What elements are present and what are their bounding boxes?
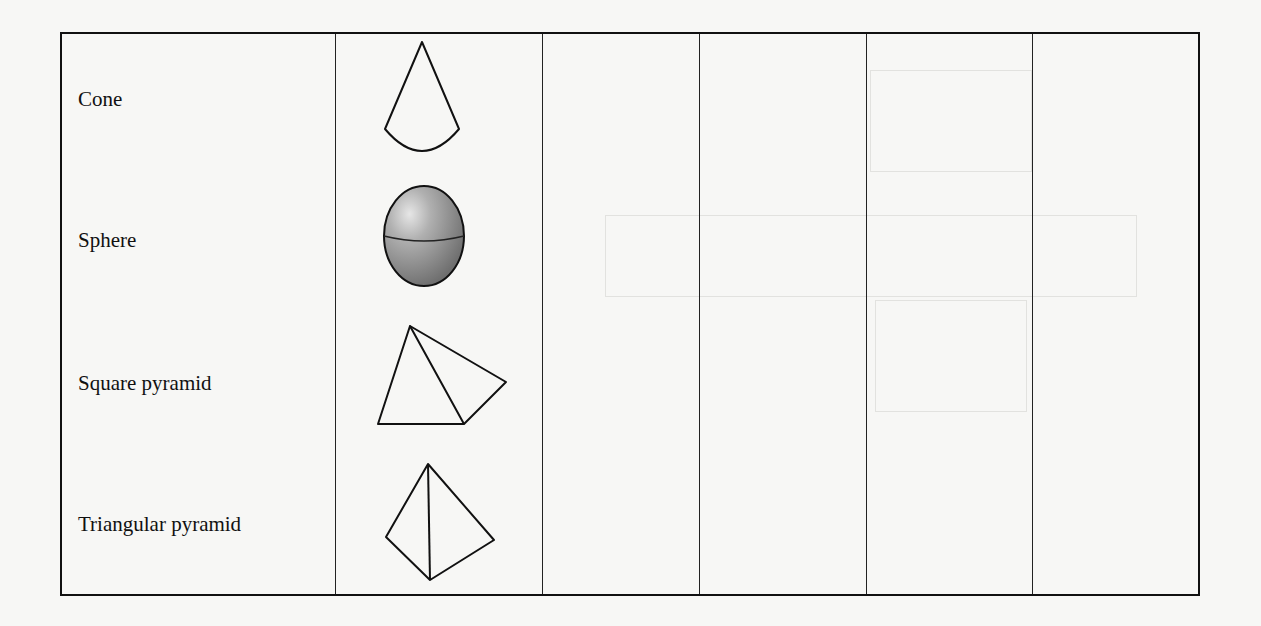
shape-name-triangular-pyramid: Triangular pyramid [78,512,241,536]
shape-name-cone: Cone [78,87,122,111]
answer-column-3[interactable] [700,34,866,594]
shape-name-sphere: Sphere [78,228,136,252]
shape-name-square-pyramid: Square pyramid [78,371,212,395]
column-divider [1032,34,1033,594]
shapes-table: Cone Sphere Square pyramid Triangular py… [60,32,1200,596]
answer-column-1[interactable] [336,34,542,594]
answer-column-4[interactable] [867,34,1032,594]
answer-column-2[interactable] [543,34,699,594]
